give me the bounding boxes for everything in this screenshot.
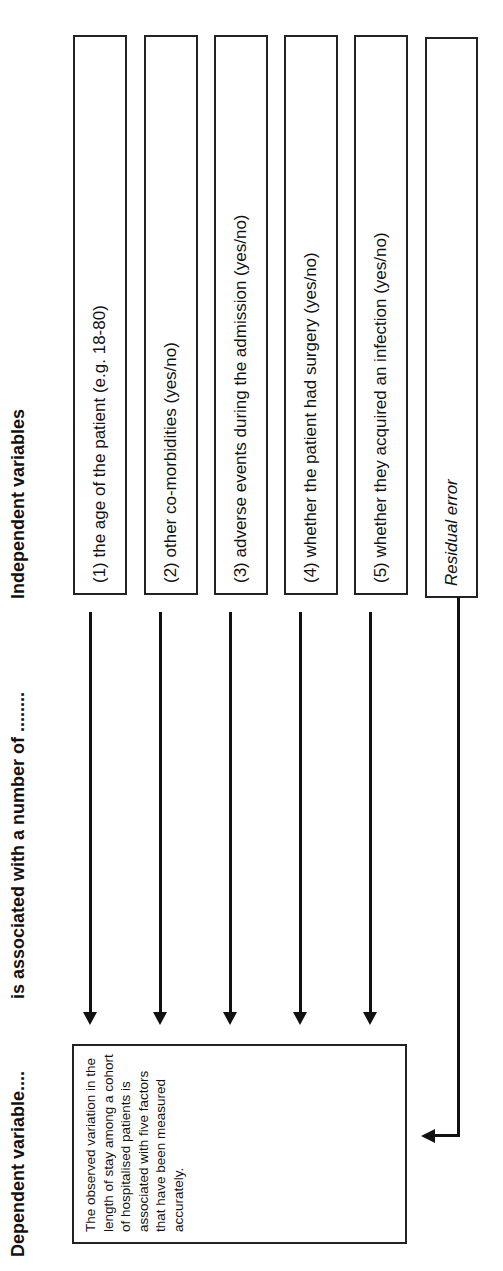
arrow-left-icon	[299, 612, 302, 1013]
independent-variable-label: (4) whether the patient had surgery (yes…	[301, 252, 321, 583]
header-independent-variables: Independent variables	[8, 409, 29, 599]
arrow-left-icon	[369, 612, 372, 1013]
residual-error-label: Residual error	[442, 479, 462, 586]
independent-variable-box-2: (2) other co-morbidities (yes/no)	[144, 35, 198, 595]
independent-variable-label: (1) the age of the patient (e.g. 18-80)	[90, 305, 110, 583]
independent-variable-box-5: (5) whether they acquired an infection (…	[354, 35, 408, 595]
residual-error-box: Residual error	[425, 37, 478, 598]
independent-variable-label: (2) other co-morbidities (yes/no)	[161, 342, 181, 583]
header-dependent-variable: Dependent variable....	[8, 1071, 29, 1257]
dependent-variable-box: The observed variation in the length of …	[72, 1044, 407, 1244]
arrow-left-icon	[89, 612, 92, 1013]
residual-connector-elbow	[434, 1134, 460, 1137]
residual-connector-line	[457, 597, 460, 1137]
independent-variable-box-4: (4) whether the patient had surgery (yes…	[284, 35, 338, 595]
dependent-variable-text: The observed variation in the length of …	[82, 1052, 187, 1232]
independent-variable-box-3: (3) adverse events during the admission …	[214, 35, 268, 595]
header-association: is associated with a number of ........	[8, 692, 29, 999]
regression-diagram: Dependent variable.... is associated wit…	[0, 0, 503, 1271]
independent-variable-label: (3) adverse events during the admission …	[231, 214, 251, 583]
arrow-left-icon	[229, 612, 232, 1013]
arrow-up-icon	[421, 1129, 435, 1143]
independent-variable-label: (5) whether they acquired an infection (…	[371, 232, 391, 583]
independent-variable-box-1: (1) the age of the patient (e.g. 18-80)	[73, 35, 127, 595]
arrow-left-icon	[159, 612, 162, 1013]
